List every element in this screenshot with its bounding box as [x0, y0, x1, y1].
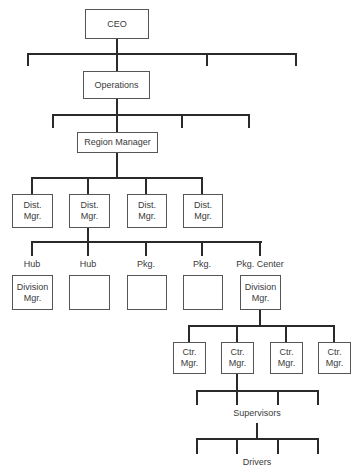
dist-mgr-box: Dist. Mgr. [12, 194, 53, 228]
connector [52, 114, 250, 116]
connector [87, 177, 89, 194]
connector [196, 390, 198, 405]
supervisors-label: Supervisors [233, 408, 281, 418]
connector [188, 325, 190, 342]
connector [188, 325, 335, 327]
ctr-mgr-box: Ctr. Mgr. [173, 342, 206, 374]
connector [256, 423, 258, 439]
facility-label: Pkg. [193, 259, 211, 269]
connector [31, 241, 33, 256]
connector [116, 153, 118, 178]
connector [259, 310, 261, 326]
empty-box [183, 275, 223, 310]
connector [31, 177, 33, 194]
connector [333, 325, 335, 342]
division-mgr-box: Division Mgr. [12, 275, 53, 310]
connector [259, 241, 261, 256]
connector [295, 53, 297, 66]
connector [201, 177, 203, 194]
connector [31, 177, 203, 179]
connector [196, 438, 198, 454]
dist-mgr-box: Dist. Mgr. [127, 194, 167, 228]
connector [87, 228, 89, 242]
connector [236, 438, 238, 454]
ctr-mgr-box: Ctr. Mgr. [270, 342, 303, 374]
connector [87, 241, 89, 256]
connector [236, 374, 238, 391]
connector [145, 241, 147, 256]
facility-label: Pkg. [137, 259, 155, 269]
connector [285, 325, 287, 342]
connector [277, 438, 279, 454]
connector [196, 390, 319, 392]
connector [27, 53, 297, 55]
connector [236, 390, 238, 405]
connector [196, 438, 319, 440]
connector [248, 114, 250, 128]
facility-label: Hub [80, 259, 97, 269]
connector [236, 325, 238, 342]
connector [145, 177, 147, 194]
region-manager-box: Region Manager [77, 132, 158, 153]
facility-label: Hub [24, 259, 41, 269]
ctr-mgr-box: Ctr. Mgr. [318, 342, 351, 374]
dist-mgr-box: Dist. Mgr. [183, 194, 223, 228]
connector [52, 114, 54, 128]
connector [201, 241, 203, 256]
connector [317, 438, 319, 454]
facility-label: Pkg. Center [236, 259, 284, 269]
empty-box [127, 275, 167, 310]
connector [27, 53, 29, 66]
dist-mgr-box: Dist. Mgr. [69, 194, 110, 228]
division-mgr-box: Division Mgr. [240, 275, 281, 310]
operations-box: Operations [83, 71, 150, 99]
connector [181, 114, 183, 128]
empty-box [69, 275, 110, 310]
drivers-label: Drivers [243, 457, 272, 467]
ctr-mgr-box: Ctr. Mgr. [221, 342, 254, 374]
ceo-box: CEO [85, 9, 149, 39]
connector [317, 390, 319, 405]
connector [277, 390, 279, 405]
connector [116, 39, 118, 71]
connector [206, 53, 208, 66]
